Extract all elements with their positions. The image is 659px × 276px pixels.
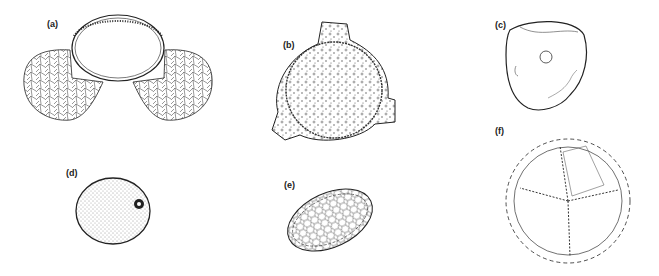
- pollen-c-smooth: [506, 22, 586, 110]
- pollen-b-triporate: [272, 22, 395, 140]
- figure-canvas: [0, 0, 659, 276]
- pollen-d-spherical: [76, 178, 150, 244]
- pollen-e-reticulate: [278, 177, 382, 264]
- pollen-a-bisaccate: [24, 15, 212, 120]
- spore-f-echinate: [506, 139, 630, 263]
